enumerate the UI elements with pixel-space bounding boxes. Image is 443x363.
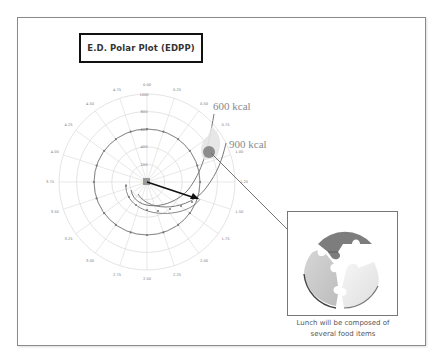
puzzle-pie-icon [288,212,399,317]
leader-line [211,153,287,229]
svg-text:4.50: 4.50 [86,102,95,106]
svg-text:3.50: 3.50 [51,210,60,214]
panel-caption: Lunch will be composed of several food i… [283,318,403,340]
svg-text:2.75: 2.75 [113,273,121,277]
svg-text:2.00: 2.00 [200,259,209,263]
svg-text:4.75: 4.75 [113,88,121,92]
svg-text:400: 400 [141,145,149,149]
label-900-kcal: 900 kcal [229,138,267,150]
svg-text:200: 200 [141,163,149,167]
svg-text:1000: 1000 [139,93,149,97]
caption-line-1: Lunch will be composed of [283,318,403,329]
svg-text:0.00: 0.00 [143,83,152,87]
svg-text:2.50: 2.50 [143,277,152,281]
svg-text:3.75: 3.75 [46,180,54,184]
svg-text:0.25: 0.25 [173,88,181,92]
svg-text:3.00: 3.00 [86,259,95,263]
svg-text:0.50: 0.50 [200,102,209,106]
svg-text:1.75: 1.75 [221,237,229,241]
svg-text:4.25: 4.25 [65,123,73,127]
svg-text:1.00: 1.00 [235,150,244,154]
svg-text:800: 800 [141,110,149,114]
svg-text:4.00: 4.00 [51,150,60,154]
svg-text:0.75: 0.75 [221,123,229,127]
svg-text:3.25: 3.25 [65,237,73,241]
svg-text:1.50: 1.50 [235,210,244,214]
chart-series [93,114,226,236]
food-panel [287,211,398,316]
caption-line-2: several food items [283,329,403,340]
svg-text:2.25: 2.25 [173,273,181,277]
label-600-kcal: 600 kcal [213,100,251,112]
